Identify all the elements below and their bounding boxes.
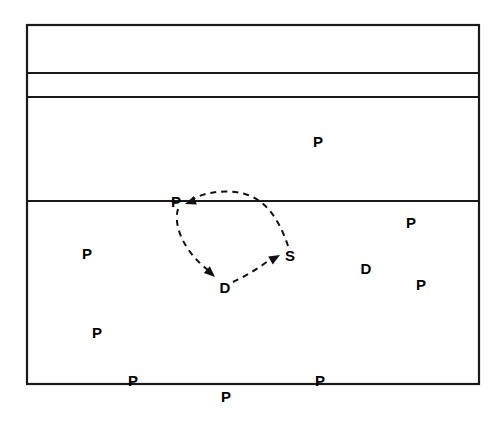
marker-p-left-lower: P (92, 325, 102, 340)
arrow-p-to-d (177, 209, 218, 280)
arrow-s-to-p (183, 192, 288, 246)
marker-d-right: D (361, 261, 372, 276)
arrow-d-to-s-head (268, 251, 282, 264)
marker-p-right-upper: P (406, 215, 416, 230)
arrow-d-to-s (233, 251, 282, 282)
diagram-canvas: P P P P S D D P P P P P (0, 0, 504, 427)
marker-s-setter: S (285, 248, 295, 263)
marker-p-right-lower: P (416, 277, 426, 292)
marker-p-movement-origin: P (171, 194, 181, 209)
marker-p-baseline-right: P (315, 373, 325, 388)
arrow-p-to-d-path (177, 209, 211, 272)
marker-p-upper-zone: P (313, 134, 323, 149)
arrow-d-to-s-path (233, 258, 272, 282)
marker-p-below-baseline: P (221, 389, 231, 404)
marker-d-movement-target: D (220, 280, 231, 295)
diagram-vector-layer (0, 0, 504, 427)
arrow-s-to-p-path (192, 192, 288, 246)
marker-p-left-mid: P (82, 246, 92, 261)
marker-p-baseline-left: P (128, 373, 138, 388)
